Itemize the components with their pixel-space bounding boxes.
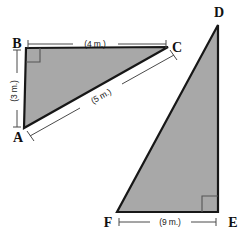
- triangle-abc-group: (4 m.) (3 m.) (5 m.) A B C: [9, 36, 182, 145]
- vertex-label-e: E: [228, 215, 237, 230]
- vertex-label-d: D: [214, 5, 224, 20]
- dimension-fe: (9 m.): [119, 217, 216, 227]
- dimension-label-fe: (9 m.): [159, 217, 181, 227]
- dimension-label-bc: (4 m.): [84, 39, 106, 49]
- vertex-label-a: A: [13, 130, 24, 145]
- vertex-label-f: F: [104, 215, 113, 230]
- vertex-label-b: B: [12, 36, 21, 51]
- dimension-label-ab: (3 m.): [9, 80, 19, 102]
- vertex-label-c: C: [172, 40, 182, 55]
- triangle-abc-shape: [24, 47, 168, 128]
- figure-canvas: (4 m.) (3 m.) (5 m.) A B C: [0, 0, 244, 243]
- geometry-figure: (4 m.) (3 m.) (5 m.) A B C: [0, 0, 244, 243]
- dimension-ab: (3 m.): [9, 50, 21, 127]
- triangle-def-group: (9 m.) D E F: [104, 5, 238, 230]
